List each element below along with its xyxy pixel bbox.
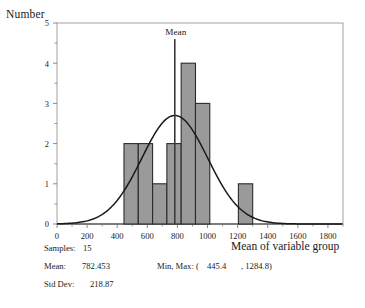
y-tick-label: 1: [45, 180, 49, 189]
histogram-bar: [195, 103, 209, 224]
x-tick-label: 1600: [289, 231, 306, 240]
samples-value: 15: [83, 244, 92, 253]
stddev-label: Std Dev:: [44, 280, 74, 289]
x-tick-label: 0: [55, 231, 59, 240]
histogram-bar: [138, 144, 152, 224]
x-tick-label: 1200: [229, 231, 246, 240]
histogram-bar: [238, 184, 252, 224]
x-axis-label: Mean of variable group: [231, 240, 339, 252]
y-tick-label: 4: [45, 60, 50, 69]
samples-label: Samples:: [44, 244, 76, 253]
x-tick-label: 1800: [319, 231, 336, 240]
max-value: , 1284.8): [241, 262, 272, 271]
x-tick-label: 400: [111, 231, 124, 240]
y-tick-label: 3: [45, 100, 49, 109]
y-tick-label: 5: [45, 19, 49, 28]
stddev-value: 218.87: [90, 280, 114, 289]
histogram-bar: [124, 144, 138, 224]
x-tick-label: 800: [171, 231, 184, 240]
y-tick-label: 2: [45, 140, 49, 149]
x-tick-label: 1000: [199, 231, 216, 240]
x-tick-label: 1400: [259, 231, 276, 240]
x-tick-label: 200: [81, 231, 94, 240]
bars-group: [124, 63, 253, 224]
mean-marker-label: Mean: [165, 27, 186, 37]
minmax-label: Min, Max: (: [157, 262, 199, 271]
x-tick-label: 600: [141, 231, 154, 240]
plot-area: 012345020040060080010001200140016001800M…: [0, 0, 365, 240]
min-value: 445.4: [207, 262, 226, 271]
y-axis-label: Number: [6, 8, 45, 20]
y-tick-label: 0: [45, 220, 49, 229]
histogram-chart: Number Mean of variable group 0123450200…: [0, 0, 365, 308]
mean-label: Mean:: [44, 262, 66, 271]
histogram-bar: [153, 184, 167, 224]
histogram-bar: [181, 63, 195, 224]
mean-value: 782.453: [82, 262, 110, 271]
